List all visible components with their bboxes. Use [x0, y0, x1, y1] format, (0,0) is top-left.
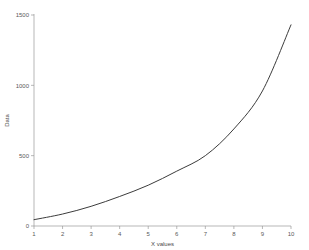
- y-axis-title: Data: [4, 114, 10, 127]
- chart-background: [0, 0, 309, 250]
- y-tick-label: 1500: [16, 12, 30, 18]
- y-tick-label: 1000: [16, 83, 30, 89]
- chart-page: 050010001500 12345678910 X values Data: [0, 0, 309, 250]
- y-tick-label: 500: [19, 153, 30, 159]
- x-tick-label: 10: [288, 231, 295, 237]
- x-axis-title: X values: [151, 241, 174, 247]
- line-chart: 050010001500 12345678910 X values Data: [0, 0, 309, 250]
